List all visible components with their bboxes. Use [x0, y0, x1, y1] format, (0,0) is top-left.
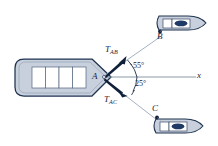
label-angle-upper: 55° [133, 62, 144, 70]
diagram-canvas [0, 0, 218, 146]
label-force-tac-sub: AC [109, 98, 117, 105]
angle-tick-upper [128, 60, 132, 65]
label-point-b: B [157, 32, 163, 41]
label-point-c: C [152, 104, 158, 113]
boat-c-window [172, 124, 185, 130]
boat-c-group [154, 116, 203, 133]
boat-b-group [157, 16, 206, 33]
label-angle-lower: 25° [135, 80, 146, 88]
barge-compartment [46, 67, 60, 88]
label-force-tab: TAB [105, 45, 118, 54]
vector-tab [105, 56, 127, 78]
point-a-marker [103, 76, 106, 79]
towing-diagram-figure: A B C x TAB TAC 55° 25° [0, 0, 218, 146]
label-point-a: A [92, 72, 98, 81]
vector-tac-shaft [104, 78, 123, 95]
label-force-tab-sub: AB [110, 48, 118, 55]
barge-compartment [32, 67, 46, 88]
barge-compartments [32, 67, 86, 88]
vector-tac-arrowhead [119, 92, 128, 97]
barge-compartment [73, 67, 87, 88]
label-axis-x: x [197, 71, 201, 80]
boat-b-window [175, 21, 188, 27]
boat-c-cabin [160, 122, 169, 131]
label-force-tac: TAC [104, 95, 117, 104]
boat-b-cabin [163, 19, 172, 28]
barge-compartment [59, 67, 73, 88]
